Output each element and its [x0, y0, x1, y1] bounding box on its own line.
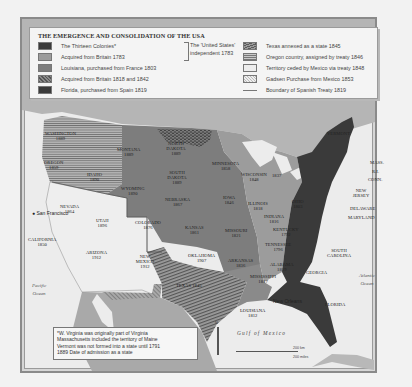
- florida: [267, 282, 337, 347]
- pacific-ocean-label: PacificOcean: [32, 282, 46, 298]
- state-label-south-dakota: SOUTH DAKOTA1889: [165, 170, 189, 185]
- state-label-alabama: ALABAMA1819: [270, 262, 294, 272]
- legend-item-thirteen-colonies: The Thirteen Colonies*: [38, 41, 116, 51]
- state-label-oklahoma: OKLAHOMA1907: [188, 253, 215, 263]
- state-label-michigan: 1837: [272, 173, 281, 178]
- swatch-icon: [243, 64, 257, 72]
- compass-n-label: N: [215, 320, 218, 325]
- state-label-florida: FLORIDA: [325, 302, 345, 307]
- state-label-south-carolina: SOUTH CAROLINA: [324, 248, 354, 258]
- state-label-iowa: IOWA1846: [223, 195, 235, 205]
- state-label-georgia: GEORGIA: [306, 270, 327, 275]
- state-label-ohio: OHIO1803: [292, 199, 304, 209]
- independence-note: The 'United States'independent 1783: [190, 42, 235, 57]
- state-label-maryland: MARYLAND: [348, 215, 375, 220]
- state-label-tennessee: TENNESSEE1796: [265, 242, 291, 252]
- legend-item-britain-1783: Acquired from Britain 1783: [38, 52, 125, 62]
- state-label-texas: TEXAS 1845: [176, 283, 202, 288]
- atlantic-ocean-label: AtlanticOcean: [359, 272, 375, 288]
- line-icon: [243, 90, 257, 91]
- north-arrow-icon: [217, 327, 219, 355]
- city-san-francisco: ● San Francisco: [32, 210, 68, 216]
- map-title: THE EMERGENCE AND CONSOLIDATION OF THE U…: [38, 32, 205, 39]
- state-label-mississippi: MISSISSIPPI1817: [250, 274, 276, 284]
- state-label-wyoming: WYOMING1890: [121, 186, 145, 196]
- city-new-orleans: New Orleans: [273, 298, 302, 304]
- footnote-box: *W. Virginia was originally part of Virg…: [53, 327, 198, 360]
- swatch-icon: [38, 86, 52, 94]
- state-label-arkansas: ARKANSAS1836: [228, 258, 253, 268]
- state-label-kansas: KANSAS1861: [185, 225, 204, 235]
- cuba: [312, 354, 374, 370]
- state-label-arizona: ARIZONA1912: [86, 250, 107, 260]
- legend-item-spanish-treaty: Boundary of Spanish Treaty 1819: [243, 85, 346, 95]
- state-label-vermont: VERMONT: [327, 131, 350, 136]
- legend-item-louisiana-1803: Louisiana, purchased from France 1803: [38, 63, 156, 73]
- state-label-oregon: OREGON1859: [44, 160, 63, 170]
- legend-item-gadsden-1853: Gadsen Purchase from Mexico 1853: [243, 74, 354, 84]
- state-label-illinois: ILLINOIS1818: [248, 201, 268, 211]
- state-label-kentucky: KENTUCKY1792: [273, 227, 299, 237]
- state-label-new-mexico: NEW MEXICO1912: [134, 254, 156, 269]
- swatch-icon: [38, 64, 52, 72]
- state-label-montana: MONTANA1889: [117, 147, 140, 157]
- state-label-nebraska: NEBRASKA1867: [165, 197, 190, 207]
- swatch-icon: [243, 53, 257, 61]
- legend-item-florida-1819: Florida, purchased from Spain 1819: [38, 85, 147, 95]
- swatch-icon: [38, 75, 52, 83]
- swatch-icon: [243, 42, 257, 50]
- state-label-wisconsin: WISCONSIN1848: [241, 172, 267, 182]
- state-label-mass: MASS.: [370, 160, 384, 165]
- legend-item-oregon-1846: Oregon country, assigned by treaty 1846: [243, 52, 363, 62]
- state-label-utah: UTAH1896: [96, 218, 109, 228]
- state-label-north-dakota: NORTH DAKOTA1889: [165, 141, 187, 156]
- scale-bar: [236, 351, 298, 352]
- legend-bracket: [184, 42, 189, 61]
- state-label-washington: WASHINGTON1889: [45, 131, 76, 141]
- state-label-indiana: INDIANA1816: [264, 214, 284, 224]
- scale-miles: 200 miles: [293, 355, 308, 359]
- state-label-idaho: IDAHO1890: [87, 172, 102, 182]
- legend-item-texas-1845: Texas annexed as a state 1845: [243, 41, 341, 51]
- state-label-minnesota: MINNESOTA1858: [212, 161, 239, 171]
- state-label-new-jersey: NEW JERSEY: [350, 188, 372, 198]
- state-label-louisiana: LOUISIANA1812: [240, 308, 265, 318]
- map-legend: THE EMERGENCE AND CONSOLIDATION OF THE U…: [29, 27, 378, 99]
- state-label-california: CALIFORNIA1850: [28, 237, 56, 247]
- state-label-missouri: MISSOURI1821: [225, 228, 247, 238]
- swatch-icon: [38, 42, 52, 50]
- legend-item-britain-1818-1842: Acquired from Britain 1818 and 1842: [38, 74, 149, 84]
- scale-km: 200 km: [293, 346, 305, 350]
- state-label-ri: R.I.: [372, 169, 379, 174]
- state-label-colorado: COLORADO1876: [135, 220, 161, 230]
- legend-item-mexico-1848: Territory ceded by Mexico via treaty 184…: [243, 63, 364, 73]
- state-label-conn: CONN.: [368, 177, 382, 182]
- swatch-icon: [243, 75, 257, 83]
- gulf-of-mexico-label: Gulf of Mexico: [237, 330, 286, 336]
- swatch-icon: [38, 53, 52, 61]
- state-label-delaware: DELAWARE: [350, 206, 375, 211]
